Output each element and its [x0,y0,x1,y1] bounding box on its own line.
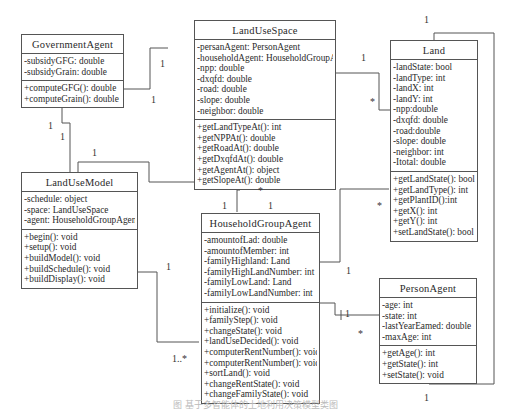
attribute: -npp: double [197,63,333,74]
operation: +initialize(): void [204,305,317,316]
multiplicity-label: 1 [92,147,97,158]
class-name: LandUseModel [22,173,137,192]
attribute: -road:double [393,126,475,137]
operation: +changeState(): void [204,326,317,337]
operation: +computerRentNumber(): void [204,358,317,369]
operation: +buildDisplay(): void [24,274,135,285]
operations-section: +getLandState(): bool +getLandType(): in… [391,172,477,241]
class-name: PersonAgent [380,279,476,298]
attribute: -amountofLad: double [204,235,317,246]
attributes-section: -age: int -state: int -lastYearEamed: do… [380,298,476,346]
attribute: -lastYearEamed: double [382,321,474,332]
attribute: -slope: double [393,136,475,147]
operation: +getAge(): int [382,348,474,359]
operation: +getSlopeAt(): double [197,175,333,186]
class-name: LandUseSpace [195,21,335,40]
operation: +computeGFG(): double [24,83,121,94]
operation: +getPlantID():int [393,195,475,206]
attribute: -landX: int [393,83,475,94]
operation: +getY(): int [393,216,475,227]
multiplicity-label: * [258,185,263,196]
operation: +setLandState(): bool [393,227,475,238]
attribute: -maxAge: int [382,332,474,343]
operation: +getNPPAt(): double [197,133,333,144]
attribute: -slope: double [197,95,333,106]
attribute: -persanAgent: PersonAgent [197,42,333,53]
attribute: -familyLowLand: Land [204,277,317,288]
attribute: -neighbor: int [393,147,475,158]
multiplicity-label: 1 [166,261,171,272]
attribute: -agent: HouseholdGroupAgent [24,215,135,226]
class-person-agent[interactable]: PersonAgent -age: int -state: int -lastY… [379,278,477,384]
operations-section: +initialize(): void +familyStep(): void … [202,303,319,403]
attribute: -neighbor: double [197,106,333,117]
attribute: -npp:double [393,104,475,115]
class-name: Land [391,41,477,60]
attribute: -road: double [197,84,333,95]
attribute: -dxqfd: double [197,74,333,85]
attribute: -landY: int [393,94,475,105]
attribute: -amountofMember: int [204,246,317,257]
multiplicity-label: 1..* [172,353,187,364]
operations-section: +getAge(): int +getState(): int +setStat… [380,346,476,383]
attribute: -Itotal: double [393,157,475,168]
assoc-space-land [334,73,390,110]
operation: +getX(): int [393,206,475,217]
operation: +setup(): void [24,242,135,253]
attribute: -space: LandUseSpace [24,205,135,216]
multiplicity-label: 1 [424,14,429,25]
multiplicity-label: * [358,328,363,339]
class-household-group-agent[interactable]: HouseholdGroupAgent -amountofLad: double… [201,213,320,404]
attribute: -familyLowLandNumber: int [204,288,317,299]
operation: +changeRentState(): void [204,379,317,390]
multiplicity-label: 1 [268,200,273,211]
operation: +landUseDecided(): void [204,336,317,347]
attributes-section: -amountofLad: double -amountofMember: in… [202,233,319,303]
assoc-model-hga [137,272,199,342]
multiplicity-label: * [377,200,382,211]
operation: +getAgentAt(): object [197,165,333,176]
multiplicity-label: 1 [346,265,351,276]
operation: +begin(): void [24,232,135,243]
multiplicity-label: 1 [48,120,53,131]
attribute: -familyHighland: Land [204,256,317,267]
class-government-agent[interactable]: GovernmentAgent -subsidyGFG: double -sub… [21,34,124,108]
attributes-section: -schedule: object -space: LandUseSpace -… [22,192,137,230]
operation: +getRoadAt(): double [197,143,333,154]
operation: +getDxqfdAt(): double [197,154,333,165]
operation: +buildSchedule(): void [24,264,135,275]
attributes-section: -landState: bool -landType: int -landX: … [391,60,477,172]
operation: +setState(): void [382,370,474,381]
attribute: -familyHighLandNumber: int [204,267,317,278]
class-name: HouseholdGroupAgent [202,214,319,233]
attribute: -subsidyGFG: double [24,56,121,67]
attribute: -householdAgent: HouseholdGroupAgent [197,53,333,64]
class-land[interactable]: Land -landState: bool -landType: int -la… [390,40,478,242]
attribute: -landType: int [393,73,475,84]
multiplicity-label: 1 [151,94,156,105]
attribute: -landState: bool [393,62,475,73]
operation: +familyStep(): void [204,315,317,326]
multiplicity-label: 1 [361,52,366,63]
operation: +getLandTypeAt(): int [197,122,333,133]
attribute: -dxqfd: double [393,115,475,126]
operation: +computeGrain(): double [24,94,121,105]
multiplicity-label: 1 [222,200,227,211]
attributes-section: -subsidyGFG: double -subsidyGrain: doubl… [22,54,123,81]
operation: +getLandType(): int [393,185,475,196]
operation: +buildModel(): void [24,253,135,264]
figure-caption: 图 基于多智能体的土地利用决策模型类图 [0,398,511,411]
multiplicity-label: * [370,96,375,107]
class-land-use-model[interactable]: LandUseModel -schedule: object -space: L… [21,172,138,289]
operation: +sortLand(): void [204,368,317,379]
attribute: -age: int [382,300,474,311]
attribute: -state: int [382,311,474,322]
class-land-use-space[interactable]: LandUseSpace -persanAgent: PersonAgent -… [194,20,336,190]
multiplicity-label: 1 [60,131,65,142]
operation: +computerRentNumber(): void [204,347,317,358]
attribute: -schedule: object [24,194,135,205]
attribute: -subsidyGrain: double [24,67,121,78]
operation: +getState(): int [382,359,474,370]
operations-section: +begin(): void +setup(): void +buildMode… [22,230,137,288]
multiplicity-label: 1 [345,308,350,319]
